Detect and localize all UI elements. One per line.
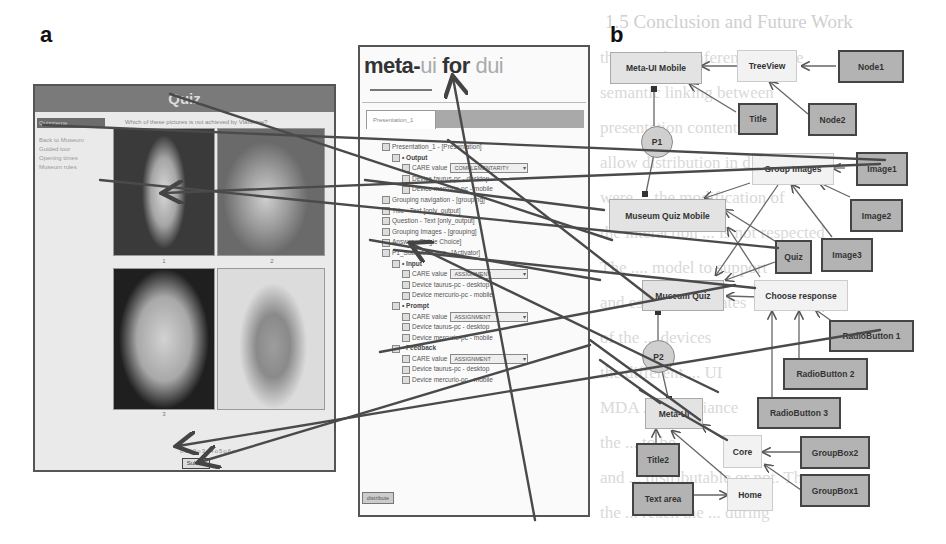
divider <box>362 102 586 103</box>
tree-row-label: • Input <box>402 260 422 267</box>
checkbox-icon[interactable] <box>382 196 390 204</box>
checkbox-icon[interactable] <box>392 345 400 353</box>
node-meta-ui-mobile: Meta-UI Mobile <box>610 52 702 84</box>
node-radiobutton-2: RadioButton 2 <box>783 358 868 390</box>
checkbox-icon[interactable] <box>382 143 390 151</box>
tree-row[interactable]: Device mercurio-pc - mobile <box>382 184 582 195</box>
care-value-select[interactable]: ASSIGNMENT <box>450 269 528 279</box>
checkbox-icon[interactable] <box>382 228 390 236</box>
checkbox-icon[interactable] <box>402 313 410 321</box>
care-value-select[interactable]: COMPLEMENTARITY <box>450 163 528 173</box>
checkbox-icon[interactable] <box>402 281 410 289</box>
presentation-tree: Presentation_1 - [Presentation]• OutputC… <box>382 142 582 386</box>
tree-row-label: CARE value <box>412 313 447 320</box>
checkbox-icon[interactable] <box>402 270 410 278</box>
node-image3: Image3 <box>821 238 873 272</box>
background-text-line: The .... model to support <box>600 254 767 281</box>
checkbox-icon[interactable] <box>402 292 410 300</box>
checkbox-icon[interactable] <box>402 175 410 183</box>
node-core: Core <box>723 435 762 468</box>
background-heading: 1.5 Conclusion and Future Work <box>605 8 853 35</box>
title-part: dui <box>475 53 503 78</box>
tree-row[interactable]: Grouping navigation - [grouping] <box>382 195 582 206</box>
checkbox-icon[interactable] <box>392 302 400 310</box>
tree-row-label: • Prompt <box>402 302 429 309</box>
checkbox-icon[interactable] <box>392 154 400 162</box>
node-radiobutton-3: RadioButton 3 <box>757 397 841 429</box>
title-part: meta- <box>364 53 420 78</box>
node-museum-quiz-mobile: Museum Quiz Mobile <box>609 199 726 232</box>
tree-row[interactable]: Question - Text [only_output] <box>382 216 582 227</box>
node-choose-response: Choose response <box>754 280 848 311</box>
tree-row[interactable]: Device taurus-pc - desktop <box>382 322 582 333</box>
quiz-image-caption: 3 <box>159 411 169 417</box>
submit-button[interactable]: Submit <box>182 458 210 469</box>
node-p1: P1 <box>641 126 673 158</box>
checkbox-icon[interactable] <box>402 334 410 342</box>
checkbox-icon[interactable] <box>392 260 400 268</box>
node-text-area: Text area <box>632 482 694 516</box>
tree-row[interactable]: CARE valueASSIGNMENT <box>382 354 582 365</box>
tree-row-label: Question - Text [only_output] <box>392 217 475 224</box>
quiz-nav-item[interactable]: Museum rules <box>39 163 84 172</box>
quiz-image-1[interactable] <box>113 128 215 256</box>
checkbox-icon[interactable] <box>382 217 390 225</box>
tree-row[interactable]: Device mercurio-pc - mobile <box>382 290 582 301</box>
node-node1: Node1 <box>838 50 904 83</box>
tree-row-label: CARE value <box>412 270 447 277</box>
care-value-select[interactable]: ASSIGNMENT <box>450 354 528 364</box>
checkbox-icon[interactable] <box>402 164 410 172</box>
node-home: Home <box>727 478 773 511</box>
tree-row[interactable]: • Input <box>382 259 582 270</box>
tree-row[interactable]: CARE valueASSIGNMENT <box>382 269 582 280</box>
tree-row[interactable]: • Prompt <box>382 301 582 312</box>
node-title: Title <box>738 103 778 135</box>
tree-row[interactable]: CARE valueCOMPLEMENTARITY <box>382 163 582 174</box>
quiz-nav-item[interactable]: Guided tour <box>39 145 84 154</box>
tree-row[interactable]: Grouping Images - [grouping] <box>382 227 582 238</box>
tree-row[interactable]: P1_SubmitAnswer - [Activator] <box>382 248 582 259</box>
node-radiobutton-1: RadioButton 1 <box>829 320 914 352</box>
tree-row-label: CARE value <box>412 355 447 362</box>
title-underline <box>370 89 432 91</box>
quiz-nav-active-item[interactable]: Quizzieme <box>37 118 105 128</box>
quiz-nav-item[interactable]: Back to Museum <box>39 136 84 145</box>
tree-row-label: • Feedback <box>402 344 436 351</box>
quiz-radio-options[interactable]: o1o2o3o4o5o6o <box>180 448 236 454</box>
tab-presentation-1[interactable]: Presentation_1 <box>366 110 436 129</box>
tree-row[interactable]: Device taurus-pc - desktop <box>382 174 582 185</box>
checkbox-icon[interactable] <box>402 323 410 331</box>
tree-row[interactable]: Device mercurio-pc - mobile <box>382 375 582 386</box>
quiz-image-3[interactable] <box>113 268 215 410</box>
checkbox-icon[interactable] <box>402 186 410 194</box>
node-groupbox2: GroupBox2 <box>800 436 870 469</box>
checkbox-icon[interactable] <box>402 355 410 363</box>
tree-row[interactable]: • Feedback <box>382 343 582 354</box>
tree-row[interactable]: Device taurus-pc - desktop <box>382 280 582 291</box>
node-meta-ui: Meta-UI <box>645 398 703 429</box>
tree-row-label: Device mercurio-pc - mobile <box>412 185 493 192</box>
checkbox-icon[interactable] <box>382 239 390 247</box>
checkbox-icon[interactable] <box>382 207 390 215</box>
checkbox-icon[interactable] <box>402 376 410 384</box>
tree-row[interactable]: Device mercurio-pc - mobile <box>382 333 582 344</box>
care-value-select[interactable]: ASSIGNMENT <box>450 312 528 322</box>
node-p2: P2 <box>642 340 675 373</box>
tree-row[interactable]: Title - Text [only_output] <box>382 206 582 217</box>
tree-row[interactable]: Device taurus-pc - desktop <box>382 364 582 375</box>
tree-row[interactable]: CARE valueASSIGNMENT <box>382 312 582 323</box>
checkbox-icon[interactable] <box>382 249 390 257</box>
tree-row[interactable]: Answer - Single Choice] <box>382 237 582 248</box>
quiz-question-text: Which of these pictures is not achieved … <box>125 119 267 125</box>
tree-row[interactable]: • Output <box>382 153 582 164</box>
panel-label-a: a <box>40 22 52 48</box>
distribute-button[interactable]: distribute <box>362 492 394 504</box>
node-image2: Image2 <box>850 199 903 232</box>
tree-row-label: Device mercurio-pc - mobile <box>412 334 493 341</box>
quiz-image-2[interactable] <box>217 128 325 256</box>
quiz-image-4[interactable] <box>217 268 325 410</box>
tree-row[interactable]: Presentation_1 - [Presentation] <box>382 142 582 153</box>
quiz-title-bar: Quiz <box>35 86 334 112</box>
quiz-nav-item[interactable]: Opening times <box>39 154 84 163</box>
checkbox-icon[interactable] <box>402 366 410 374</box>
